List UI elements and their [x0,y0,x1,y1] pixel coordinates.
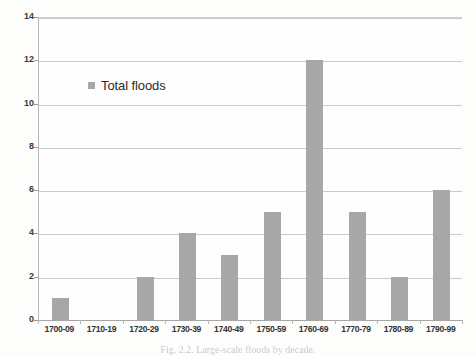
bar-1740-49 [221,255,238,320]
x-tick-mark-5 [250,320,251,324]
x-tick-label-1780-89: 1780-89 [377,325,419,334]
y-tick-mark-10 [34,104,38,105]
x-tick-mark-8 [377,320,378,324]
gridline-6 [39,191,462,192]
bar-1730-39 [179,233,196,320]
y-tick-mark-14 [34,17,38,18]
y-tick-label-14: 14 [10,12,34,21]
y-tick-mark-6 [34,190,38,191]
legend-swatch-total-floods [88,82,95,89]
x-tick-mark-6 [292,320,293,324]
y-tick-label-4: 4 [10,228,34,237]
x-tick-mark-1 [80,320,81,324]
x-tick-label-1710-19: 1710-19 [80,325,122,334]
x-tick-label-1770-79: 1770-79 [335,325,377,334]
x-tick-label-1720-29: 1720-29 [123,325,165,334]
y-tick-label-0: 0 [10,315,34,324]
bar-1790-99 [433,190,450,320]
x-tick-mark-7 [335,320,336,324]
x-tick-mark-3 [165,320,166,324]
x-tick-mark-10 [462,320,463,324]
plot-area [38,17,462,320]
gridline-14 [39,18,462,19]
x-tick-mark-0 [38,320,39,324]
y-tick-label-12: 12 [10,55,34,64]
figure-caption: Fig. 2.2. Large-scale floods by decade. [0,344,476,355]
x-tick-mark-2 [123,320,124,324]
bar-1780-89 [391,277,408,320]
x-tick-label-1740-49: 1740-49 [208,325,250,334]
x-tick-label-1700-09: 1700-09 [38,325,80,334]
y-tick-label-6: 6 [10,185,34,194]
x-tick-mark-9 [420,320,421,324]
bar-1750-59 [264,212,281,320]
chart-legend: Total floods [88,79,166,92]
gridline-10 [39,105,462,106]
y-tick-mark-2 [34,277,38,278]
x-tick-mark-4 [208,320,209,324]
bar-chart: 02468101214 1700-091710-191720-291730-39… [0,0,476,340]
figure-container: 02468101214 1700-091710-191720-291730-39… [0,0,476,355]
legend-label-total-floods: Total floods [101,79,166,92]
bar-1760-69 [306,60,323,320]
x-tick-label-1730-39: 1730-39 [165,325,207,334]
bar-1770-79 [349,212,366,320]
y-tick-label-2: 2 [10,272,34,281]
y-tick-mark-4 [34,233,38,234]
bar-1700-09 [52,298,69,320]
y-tick-label-10: 10 [10,99,34,108]
bar-1720-29 [137,277,154,320]
x-tick-label-1760-69: 1760-69 [292,325,334,334]
y-tick-mark-8 [34,147,38,148]
gridline-12 [39,61,462,62]
gridline-8 [39,148,462,149]
gridline-4 [39,234,462,235]
x-tick-label-1790-99: 1790-99 [420,325,462,334]
y-tick-label-8: 8 [10,142,34,151]
x-tick-label-1750-59: 1750-59 [250,325,292,334]
y-tick-mark-12 [34,60,38,61]
